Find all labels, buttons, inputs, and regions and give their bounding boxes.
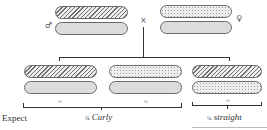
curly-bracket bbox=[23, 107, 182, 108]
cross-connector-vertical bbox=[143, 27, 144, 57]
cross-symbol: × bbox=[140, 17, 147, 25]
offspring-3-chromosome-hatched bbox=[192, 65, 262, 78]
offspring-1-chromosome-hatched bbox=[24, 65, 97, 78]
straight-bracket-right-tick bbox=[261, 102, 262, 105]
offspring-2-chromosome-plain bbox=[109, 81, 182, 94]
male-chromosome-hatched bbox=[55, 6, 128, 19]
straight-bracket-stem bbox=[227, 105, 228, 109]
curly-fraction: ¾ bbox=[85, 115, 90, 121]
offspring-1-fraction: ¼ bbox=[58, 99, 62, 104]
offspring-bracket-left-tick bbox=[59, 57, 60, 61]
female-chromosome-dotted bbox=[160, 5, 232, 18]
male-symbol: ♂ bbox=[45, 22, 52, 30]
offspring-bracket-right-tick bbox=[229, 57, 230, 61]
curly-expectation: ¾ Curly bbox=[85, 113, 112, 122]
curly-bracket-stem bbox=[101, 107, 102, 110]
straight-expectation: ¼ straight bbox=[207, 113, 242, 122]
offspring-2-chromosome-dotted bbox=[109, 65, 182, 78]
expect-label: Expect bbox=[2, 114, 27, 123]
curly-bracket-right-tick bbox=[181, 103, 182, 107]
male-chromosome-plain bbox=[55, 22, 128, 35]
female-chromosome-plain bbox=[160, 21, 232, 34]
female-symbol: ♀ bbox=[236, 15, 242, 23]
offspring-2-fraction: ¼ bbox=[144, 99, 148, 104]
offspring-1-chromosome-plain bbox=[24, 81, 97, 94]
offspring-bracket bbox=[59, 57, 230, 58]
straight-bracket-left-tick bbox=[192, 102, 193, 105]
offspring-3-chromosome-dotted bbox=[192, 81, 262, 94]
curly-phenotype: Curly bbox=[92, 112, 113, 122]
bottom-rule bbox=[192, 127, 267, 128]
curly-bracket-left-tick bbox=[23, 103, 24, 107]
straight-phenotype: straight bbox=[214, 112, 242, 122]
straight-fraction: ¼ bbox=[207, 115, 212, 121]
offspring-3-fraction: ¼ bbox=[226, 98, 230, 103]
